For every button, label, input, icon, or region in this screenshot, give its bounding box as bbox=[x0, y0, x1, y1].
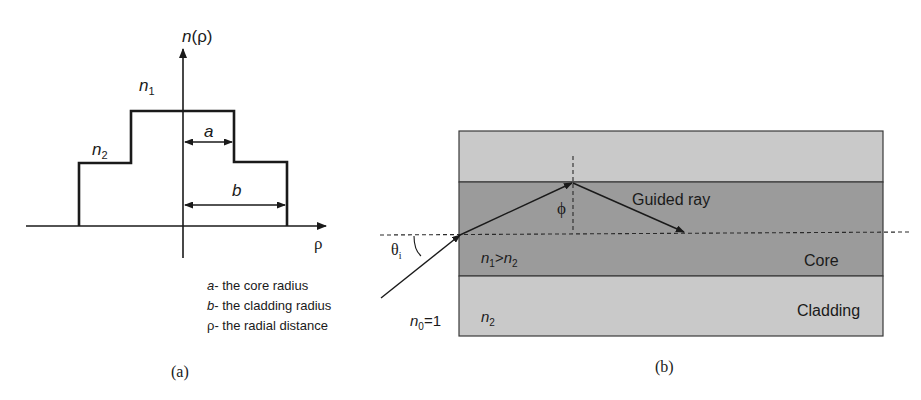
figure-canvas: n(ρ) ρ n1 n2 a b a- the core radius b- t… bbox=[0, 0, 921, 400]
cladding-label: Cladding bbox=[797, 302, 860, 319]
legend-item-core-radius: a- the core radius bbox=[207, 278, 309, 293]
guided-ray-label: Guided ray bbox=[632, 191, 710, 208]
panel-b-caption: (b) bbox=[655, 358, 674, 376]
upper-cladding bbox=[459, 131, 883, 182]
panel-b-optical-fiber-ray: θi ϕ Guided ray n1>n2 Core n2 Cladding n… bbox=[380, 131, 909, 376]
legend-item-cladding-radius: b- the cladding radius bbox=[207, 298, 332, 313]
b-label: b bbox=[232, 181, 241, 200]
outside-index-label: n0=1 bbox=[410, 312, 441, 332]
phi-label: ϕ bbox=[557, 199, 566, 218]
panel-a-caption: (a) bbox=[171, 363, 189, 381]
n2-label: n2 bbox=[92, 140, 108, 161]
n-axis-label: n(ρ) bbox=[182, 27, 212, 46]
rho-axis-label: ρ bbox=[314, 234, 322, 253]
panel-a-legend: a- the core radius b- the cladding radiu… bbox=[207, 278, 332, 333]
theta-i-label: θi bbox=[391, 241, 402, 261]
incidence-angle-arc bbox=[414, 236, 421, 256]
n1-label: n1 bbox=[139, 76, 155, 97]
core-label: Core bbox=[804, 252, 839, 269]
legend-item-radial-distance: ρ- the radial distance bbox=[207, 318, 328, 333]
a-label: a bbox=[204, 122, 213, 141]
panel-a-refractive-index-profile: n(ρ) ρ n1 n2 a b a- the core radius b- t… bbox=[26, 27, 332, 381]
